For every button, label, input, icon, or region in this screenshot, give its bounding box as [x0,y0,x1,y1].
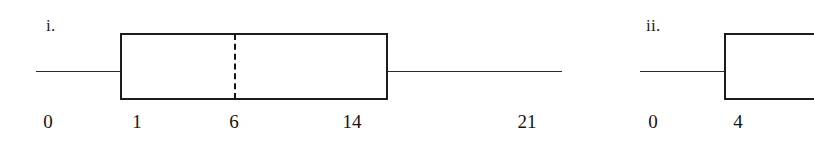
tick-label-ii-1: 4 [733,112,743,131]
median-line-i [234,34,236,99]
tick-label-i-4: 21 [518,112,537,131]
panel-label-i: i. [46,17,56,34]
whisker-left-ii [640,71,726,72]
box-i [120,33,388,100]
panel-label-ii: ii. [646,17,661,34]
tick-label-ii-0: 0 [648,112,658,131]
boxplot-panel-ii: ii. 0 4 [600,0,801,150]
tick-label-i-0: 0 [43,112,53,131]
whisker-right-i [386,71,562,72]
tick-label-i-3: 14 [343,112,362,131]
whisker-left-i [36,71,122,72]
tick-label-i-2: 6 [229,112,239,131]
box-ii [724,33,814,100]
boxplot-panel-i: i. 0 1 6 14 21 [0,0,600,150]
tick-label-i-1: 1 [132,112,142,131]
